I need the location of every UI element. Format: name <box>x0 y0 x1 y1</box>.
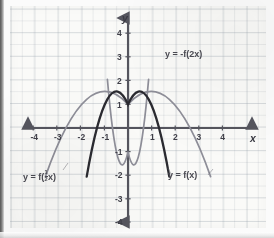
annotation-neg-f-2x: y = -f(2x) <box>165 50 202 59</box>
y-tick-2: 2 <box>117 77 122 86</box>
x-tick-3: 3 <box>197 133 202 142</box>
y-tick-4: 4 <box>117 29 122 38</box>
scan-edge-bottom <box>0 232 274 238</box>
x-tick-4: 4 <box>220 133 225 142</box>
x-tick--3: -3 <box>54 133 62 142</box>
y-axis-label: y <box>122 13 128 24</box>
graph-screenshot: -4 -3 -2 -1 1 2 3 4 4 3 2 1 -1 -2 -3 -4 … <box>0 0 274 238</box>
x-tick--1: -1 <box>102 133 110 142</box>
x-axis-label: x <box>250 133 256 144</box>
y-tick--1: -1 <box>115 148 123 157</box>
y-tick-1: 1 <box>117 101 122 110</box>
x-tick--2: -2 <box>78 133 86 142</box>
x-tick-1: 1 <box>150 133 155 142</box>
y-tick--4: -4 <box>115 218 123 227</box>
x-tick-2: 2 <box>173 133 178 142</box>
y-tick--3: -3 <box>115 195 123 204</box>
annotation-f-half-x-suffix: x) <box>48 172 56 182</box>
y-tick--2: -2 <box>115 171 123 180</box>
annotation-f-half-x: y = f(12x) <box>23 170 56 183</box>
annotation-f-half-x-prefix: y = f( <box>23 172 44 182</box>
x-tick--4: -4 <box>30 133 38 142</box>
annotation-f-x: y = f(x) <box>168 171 197 180</box>
graph-plot-area <box>0 0 274 238</box>
y-tick-3: 3 <box>117 53 122 62</box>
